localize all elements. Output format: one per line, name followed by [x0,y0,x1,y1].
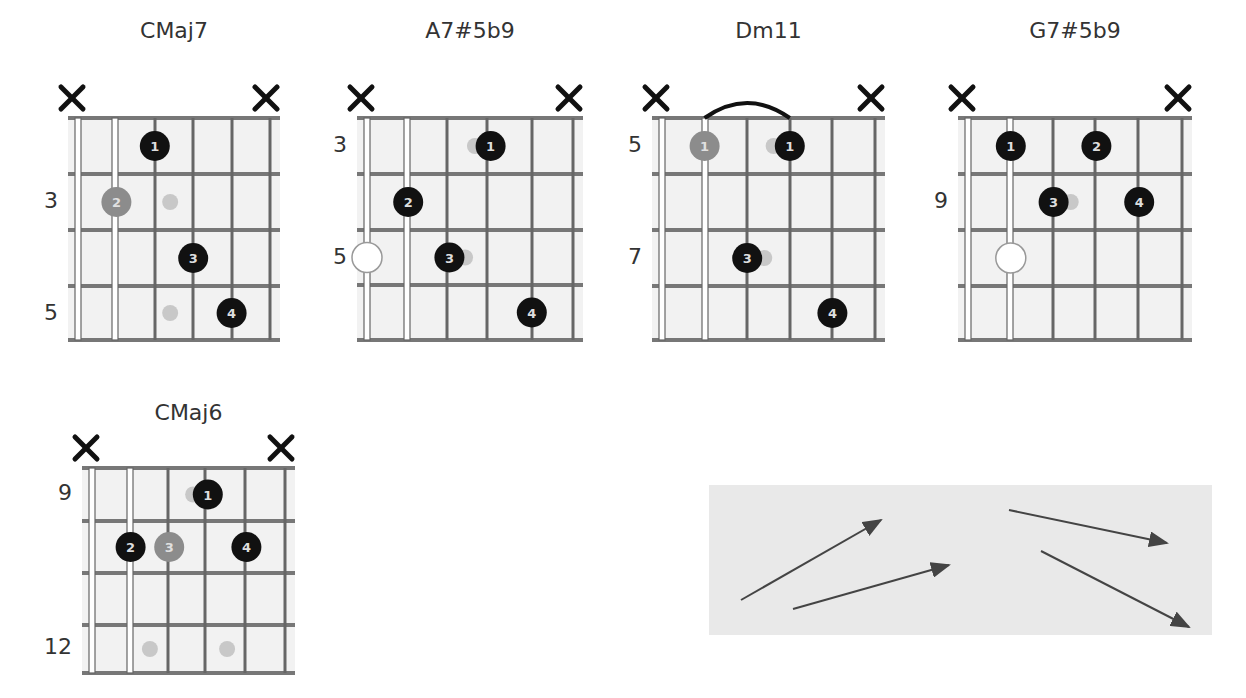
arrow-icon [1009,510,1167,543]
finger-dot: 3 [178,243,208,273]
finger-dot: 3 [732,243,762,273]
open-note-icon [996,243,1026,273]
finger-number: 2 [1092,139,1101,154]
fret-number-label: 7 [612,244,642,269]
chord-name: Dm11 [659,18,879,43]
ghost-note-icon [219,641,235,657]
fret-number-label: 9 [918,188,948,213]
finger-dot: 4 [817,298,847,328]
muted-string-icon [255,87,277,109]
chord-diagram-4: 1234 [75,437,295,675]
open-note-icon [352,243,382,273]
finger-number: 4 [1135,195,1144,210]
finger-number: 1 [150,139,159,154]
finger-number: 1 [1006,139,1015,154]
muted-string-icon [75,437,97,459]
arrow-icon [741,520,881,600]
finger-number: 1 [700,139,709,154]
finger-dot: 3 [1039,187,1069,217]
fret-number-label: 5 [317,244,347,269]
arrow-icon [793,565,949,609]
finger-number: 1 [203,488,212,503]
finger-number: 4 [242,540,251,555]
fret-number-label: 5 [612,132,642,157]
finger-number: 4 [527,306,536,321]
finger-number: 3 [743,251,752,266]
finger-dot: 4 [217,298,247,328]
finger-number: 2 [112,195,121,210]
finger-dot: 1 [476,131,506,161]
chord-name: A7#5b9 [360,18,580,43]
finger-number: 1 [486,139,495,154]
finger-number: 4 [828,306,837,321]
chord-diagram-0: 1234 [61,87,280,342]
finger-dot: 1 [996,131,1026,161]
finger-dot: 4 [517,298,547,328]
ghost-note-icon [142,641,158,657]
finger-number: 3 [1049,195,1058,210]
muted-string-icon [1167,87,1189,109]
fret-number-label: 3 [28,188,58,213]
muted-string-icon [645,87,667,109]
finger-dot: 4 [231,532,261,562]
arrows-icon [709,485,1212,635]
finger-dot: 1 [690,131,720,161]
ghost-note-icon [162,305,178,321]
finger-dot: 4 [1124,187,1154,217]
muted-string-icon [350,87,372,109]
finger-dot: 1 [140,131,170,161]
chord-name: G7#5b9 [965,18,1185,43]
finger-dot: 2 [116,532,146,562]
chord-diagram-1: 1234 [350,87,583,342]
chord-name: CMaj6 [79,400,299,425]
fret-number-label: 5 [28,300,58,325]
chord-diagram-2: 1134 [645,87,885,342]
finger-dot: 3 [434,243,464,273]
finger-dot: 1 [193,480,223,510]
finger-dot: 2 [393,187,423,217]
finger-dot: 2 [1081,131,1111,161]
arrow-icon [1041,551,1189,627]
finger-number: 3 [189,251,198,266]
muted-string-icon [860,87,882,109]
muted-string-icon [270,437,292,459]
chord-diagram-3: 1234 [951,87,1192,342]
finger-number: 2 [404,195,413,210]
chord-name: CMaj7 [64,18,284,43]
barre-icon [705,103,790,118]
fret-number-label: 12 [42,634,72,659]
muted-string-icon [558,87,580,109]
muted-string-icon [61,87,83,109]
fret-number-label: 9 [42,480,72,505]
finger-dot: 3 [154,532,184,562]
finger-number: 3 [445,251,454,266]
finger-dot: 1 [775,131,805,161]
finger-number: 4 [227,306,236,321]
muted-string-icon [951,87,973,109]
arrow-panel [709,485,1212,635]
fret-number-label: 3 [317,132,347,157]
finger-number: 3 [165,540,174,555]
finger-dot: 2 [101,187,131,217]
finger-number: 1 [785,139,794,154]
ghost-note-icon [162,194,178,210]
finger-number: 2 [126,540,135,555]
